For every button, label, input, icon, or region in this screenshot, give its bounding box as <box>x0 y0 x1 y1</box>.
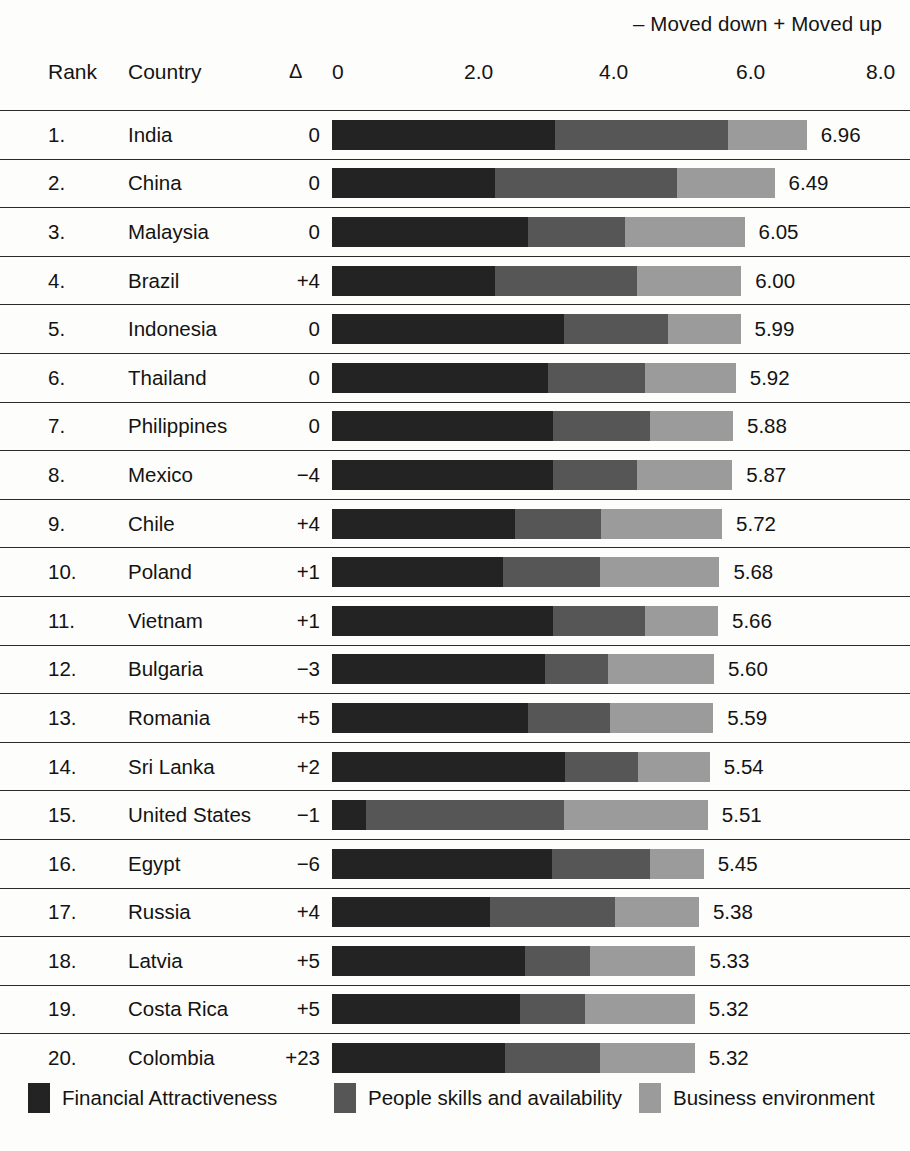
country-name: Sri Lanka <box>128 755 215 779</box>
table-row[interactable]: 8.Mexico−45.87 <box>0 450 910 499</box>
legend-item-people: People skills and availability <box>334 1083 622 1113</box>
bar-segment-financial <box>332 266 495 296</box>
legend-label-people: People skills and availability <box>368 1086 622 1110</box>
legend-swatch-business <box>639 1083 661 1113</box>
stacked-bar <box>332 606 718 636</box>
score-value: 6.05 <box>759 220 799 244</box>
rank-change-value: 0 <box>262 171 320 195</box>
country-name: China <box>128 171 182 195</box>
bar-segment-business <box>645 363 736 393</box>
table-row[interactable]: 19.Costa Rica+55.32 <box>0 985 910 1034</box>
stacked-bar <box>332 703 713 733</box>
bar-segment-financial <box>332 752 565 782</box>
bar-segment-business <box>600 557 719 587</box>
table-row[interactable]: 4.Brazil+46.00 <box>0 256 910 305</box>
stacked-bar <box>332 994 695 1024</box>
score-value: 6.49 <box>789 171 829 195</box>
score-value: 5.60 <box>728 657 768 681</box>
table-row[interactable]: 13.Romania+55.59 <box>0 693 910 742</box>
table-row[interactable]: 15.United States−15.51 <box>0 790 910 839</box>
bar-segment-people <box>515 509 601 539</box>
bar-segment-business <box>728 120 806 150</box>
bar-segment-business <box>650 849 703 879</box>
bar-segment-people <box>553 460 637 490</box>
score-value: 6.00 <box>755 269 795 293</box>
score-value: 5.99 <box>755 317 795 341</box>
table-row[interactable]: 12.Bulgaria−35.60 <box>0 645 910 694</box>
bar-segment-business <box>610 703 714 733</box>
bar-segment-financial <box>332 168 495 198</box>
stacked-bar <box>332 314 741 344</box>
bar-segment-people <box>545 654 608 684</box>
table-row[interactable]: 1.India06.96 <box>0 110 910 159</box>
bar-segment-financial <box>332 557 503 587</box>
axis-tick-2: 2.0 <box>464 60 493 84</box>
country-name: Philippines <box>128 414 227 438</box>
bar-segment-business <box>590 946 696 976</box>
table-row[interactable]: 10.Poland+15.68 <box>0 547 910 596</box>
bar-segment-financial <box>332 849 552 879</box>
table-row[interactable]: 6.Thailand05.92 <box>0 353 910 402</box>
rank-value: 17. <box>48 900 100 924</box>
legend-label-financial: Financial Attractiveness <box>62 1086 277 1110</box>
bar-segment-financial <box>332 606 553 636</box>
stacked-bar <box>332 120 807 150</box>
rank-value: 4. <box>48 269 100 293</box>
rank-value: 3. <box>48 220 100 244</box>
bar-segment-business <box>615 897 699 927</box>
bar-segment-business <box>608 654 714 684</box>
rank-change-value: 0 <box>262 414 320 438</box>
axis-tick-4: 4.0 <box>599 60 628 84</box>
bar-segment-business <box>601 509 722 539</box>
table-row[interactable]: 7.Philippines05.88 <box>0 402 910 451</box>
axis-tick-0: 0 <box>332 60 344 84</box>
rank-value: 20. <box>48 1046 100 1070</box>
rank-change-value: −4 <box>262 463 320 487</box>
score-value: 5.32 <box>709 997 749 1021</box>
bar-segment-business <box>564 800 708 830</box>
rank-value: 13. <box>48 706 100 730</box>
score-value: 5.66 <box>732 609 772 633</box>
rank-value: 8. <box>48 463 100 487</box>
country-name: Colombia <box>128 1046 215 1070</box>
table-row[interactable]: 18.Latvia+55.33 <box>0 936 910 985</box>
table-row[interactable]: 11.Vietnam+15.66 <box>0 596 910 645</box>
rank-value: 19. <box>48 997 100 1021</box>
country-name: Romania <box>128 706 210 730</box>
country-name: Costa Rica <box>128 997 228 1021</box>
stacked-bar <box>332 557 719 587</box>
bar-segment-people <box>366 800 564 830</box>
bar-segment-business <box>637 460 732 490</box>
country-name: Bulgaria <box>128 657 203 681</box>
table-row[interactable]: 5.Indonesia05.99 <box>0 304 910 353</box>
bar-segment-people <box>520 994 585 1024</box>
rank-change-value: −1 <box>262 803 320 827</box>
score-value: 5.59 <box>727 706 767 730</box>
table-row[interactable]: 17.Russia+45.38 <box>0 888 910 937</box>
table-row[interactable]: 3.Malaysia06.05 <box>0 207 910 256</box>
column-headers: Rank Country Δ 0 2.0 4.0 6.0 8.0 <box>0 60 910 94</box>
country-name: Vietnam <box>128 609 203 633</box>
bar-segment-people <box>553 411 650 441</box>
legend-swatch-people <box>334 1083 356 1113</box>
rank-change-value: 0 <box>262 366 320 390</box>
table-row[interactable]: 16.Egypt−65.45 <box>0 839 910 888</box>
chart-page: – Moved down + Moved up Rank Country Δ 0… <box>0 0 910 1151</box>
table-row[interactable]: 20.Colombia+235.32 <box>0 1033 910 1082</box>
country-name: Malaysia <box>128 220 209 244</box>
bar-segment-people <box>552 849 650 879</box>
rank-change-value: −6 <box>262 852 320 876</box>
bar-segment-business <box>585 994 695 1024</box>
bar-segment-business <box>637 266 741 296</box>
bar-segment-people <box>528 217 625 247</box>
rank-value: 9. <box>48 512 100 536</box>
table-row[interactable]: 9.Chile+45.72 <box>0 499 910 548</box>
table-row[interactable]: 2.China06.49 <box>0 159 910 208</box>
bar-segment-people <box>553 606 645 636</box>
table-row[interactable]: 14.Sri Lanka+25.54 <box>0 742 910 791</box>
stacked-bar <box>332 752 710 782</box>
bar-segment-business <box>645 606 718 636</box>
move-legend-text: – Moved down + Moved up <box>633 12 882 35</box>
rank-value: 12. <box>48 657 100 681</box>
bar-segment-people <box>503 557 600 587</box>
